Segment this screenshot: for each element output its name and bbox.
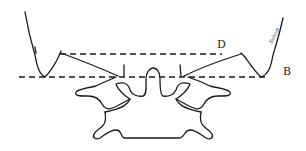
anatomical-diagram: D B Sulcus [0,0,306,151]
right-lateral-contour [241,18,283,77]
central-bone-outline [76,68,231,109]
right-slope-tick [180,65,181,76]
label-d: D [217,38,226,51]
left-slope-line [61,53,118,76]
label-b: B [283,65,291,78]
left-lateral-contour [25,12,61,77]
left-tick [35,47,36,53]
lower-bone-outline [93,112,212,139]
right-slope-line [184,54,241,76]
